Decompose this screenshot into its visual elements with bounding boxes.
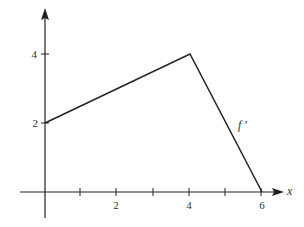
chart: 2 4 6 4 2 x f '	[0, 0, 304, 227]
x-axis-label: x	[286, 184, 293, 198]
f-prime-curve	[45, 54, 262, 192]
x-tick-label-4: 4	[186, 199, 192, 211]
x-tick-label-6: 6	[259, 199, 265, 211]
y-tick-label-2: 2	[33, 117, 39, 129]
curve-label: f '	[238, 118, 247, 132]
y-tick-label-4: 4	[32, 48, 38, 60]
x-tick-label-2: 2	[113, 199, 119, 211]
